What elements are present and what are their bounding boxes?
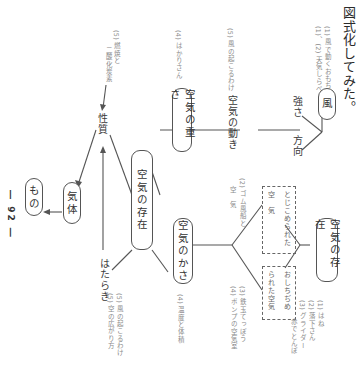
node-kuuki-no-omosa: 空気の重さ <box>172 88 192 152</box>
label-seishitsu: 性質 <box>96 113 106 135</box>
note-sonzai-right-1: (1) はね <box>316 300 323 327</box>
node-kuuki-no-sonzai-center: 空気の存在 <box>131 150 153 250</box>
box-oshichijimerareta-line1: おしちぢめ <box>282 271 292 315</box>
box-tojikomerareta-line1: とじこめられた <box>282 191 292 249</box>
node-kaze: 風 <box>318 88 336 120</box>
box-oshichijimerareta: おしちぢめ られた空気 <box>262 266 296 320</box>
note-sonzai-right-4: 赤でとんぼ <box>289 318 296 355</box>
node-kitai: 気体 <box>63 182 81 224</box>
label-houkou: 方向 <box>291 135 301 157</box>
note-bottom-1: (5) 風の起こるわけ <box>115 293 122 357</box>
box-oshichijimerareta-line2: られた空気 <box>266 271 276 315</box>
node-kuuki-no-ugoki: 空気の動き <box>226 95 236 150</box>
page-title: 図式化してみた。 <box>342 6 355 114</box>
box-tojikomerareta-line2: 空 気 <box>266 191 276 249</box>
note-ugoki: (5) 風の起こるわけ <box>226 28 233 92</box>
note-bottom-2: (5) 空の広がり方 <box>106 293 113 349</box>
node-kuuki-no-sonzai-right: 空気の存在 <box>316 218 338 282</box>
box-tojikomerareta: とじこめられた 空 気 <box>262 186 296 254</box>
note-seishitsu-1: (5) 燃焼と <box>112 30 119 64</box>
node-kuuki-no-kasa: 空気のかさ <box>173 218 193 284</box>
note-oshichijime-1: (3) 鉄玉てっぽう <box>238 286 245 342</box>
note-sonzai-right-2: (2) 落下さん <box>307 300 314 342</box>
note-omosa: (4) はかりさん <box>174 30 181 79</box>
note-sonzai-right-3: (3) グライダー <box>298 300 305 349</box>
note-tojikome-2: 空 気 <box>228 186 235 208</box>
note-kaze-1: (1) 風で動くおもちゃ <box>323 26 330 97</box>
note-kasa: (4) 温度と体積 <box>176 294 183 343</box>
note-kaze-2: (1)、(2) 天気しらべ <box>314 26 321 92</box>
page-number: ― 92 ― <box>6 190 16 239</box>
label-tsuyosa: 強さ <box>291 96 301 118</box>
note-oshichijime-2: (4) ポンプの空気室 <box>229 286 236 350</box>
node-mono: もの <box>25 178 43 216</box>
note-tojikome-1: (2) ゴム風船と <box>238 178 245 227</box>
note-seishitsu-2: 二酸化炭素 <box>104 46 111 83</box>
